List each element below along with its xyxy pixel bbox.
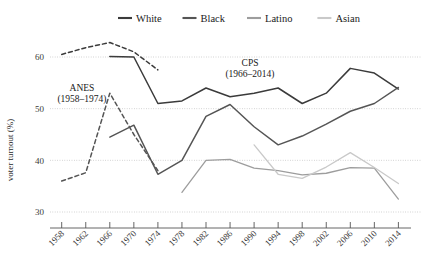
y-axis-tick-labels: 30405060	[35, 52, 45, 217]
legend-label-white: White	[136, 13, 162, 24]
chart-legend: WhiteBlackLatinoAsian	[118, 13, 361, 24]
x-tick-label-1990: 1990	[239, 228, 259, 248]
y-tick-40: 40	[35, 156, 45, 166]
series-line-asian-cps	[254, 145, 398, 184]
x-tick-label-1966: 1966	[94, 228, 114, 248]
x-tick-label-1994: 1994	[263, 228, 283, 248]
x-tick-label-2006: 2006	[335, 228, 355, 248]
y-tick-60: 60	[35, 52, 45, 62]
x-tick-label-1986: 1986	[215, 228, 235, 248]
x-tick-label-2010: 2010	[359, 228, 379, 248]
annotation-cps-range: (1966–2014)	[225, 69, 274, 80]
voter-turnout-chart: 30405060 1958196219661970197419781982198…	[0, 0, 429, 271]
y-tick-30: 30	[35, 207, 45, 217]
annotation-cps-title: CPS	[242, 58, 259, 68]
x-tick-label-1998: 1998	[287, 228, 307, 248]
x-tick-label-1982: 1982	[191, 228, 211, 248]
x-tick-label-2002: 2002	[311, 228, 331, 248]
series-line-black-cps	[110, 87, 399, 174]
x-tick-label-1970: 1970	[118, 228, 138, 248]
x-axis	[50, 222, 411, 228]
y-tick-50: 50	[35, 104, 45, 114]
x-tick-label-1974: 1974	[143, 228, 163, 248]
x-tick-label-2014: 2014	[383, 228, 403, 248]
x-tick-label-1958: 1958	[46, 228, 66, 248]
annotation-anes-title: ANES	[70, 83, 95, 93]
y-axis-title: voter turnout (%)	[5, 119, 15, 181]
chart-svg: 30405060 1958196219661970197419781982198…	[0, 0, 429, 271]
x-tick-label-1978: 1978	[167, 228, 187, 248]
series-line-latino-cps	[182, 159, 398, 199]
chart-annotations: ANES(1958–1974)CPS(1966–2014)	[57, 58, 274, 105]
legend-label-black: Black	[201, 13, 226, 24]
annotation-anes-range: (1958–1974)	[57, 94, 106, 105]
series-lines	[62, 43, 399, 200]
x-axis-tick-labels: 1958196219661970197419781982198619901994…	[46, 228, 403, 248]
gridlines	[50, 57, 421, 212]
legend-label-latino: Latino	[265, 13, 292, 24]
legend-label-asian: Asian	[335, 13, 360, 24]
x-tick-label-1962: 1962	[70, 228, 90, 248]
